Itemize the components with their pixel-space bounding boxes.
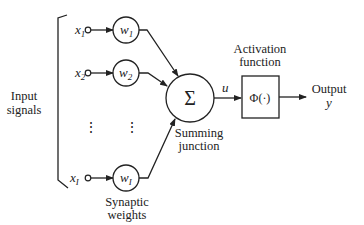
induced-field-label: u: [222, 80, 229, 95]
svg-text:Input: Input: [11, 89, 38, 103]
input-bracket: [58, 15, 68, 188]
weights-ellipsis: ⋮: [125, 120, 139, 135]
svg-text:weights: weights: [108, 208, 147, 222]
input-row-2: x2 w2: [74, 60, 167, 86]
svg-text:junction: junction: [178, 139, 221, 153]
svg-text:Output: Output: [312, 82, 347, 96]
neuron-model-diagram: Input signals x1 w1 x2 w2 ⋮ ⋮ xI wI Syna…: [0, 0, 364, 225]
input-node-2: [85, 70, 91, 76]
activation-function-label: Activation function: [234, 42, 288, 69]
inputs-ellipsis: ⋮: [84, 120, 98, 135]
svg-text:x2: x2: [74, 65, 86, 82]
svg-text:signals: signals: [7, 103, 42, 117]
svg-text:function: function: [239, 55, 281, 69]
svg-text:Synaptic: Synaptic: [105, 195, 149, 209]
svg-text:xI: xI: [69, 170, 80, 187]
summing-junction-label: Summing junction: [175, 126, 224, 153]
svg-text:x1: x1: [74, 22, 85, 39]
output-label: Output y: [312, 82, 347, 110]
sigma-symbol: Σ: [184, 87, 196, 109]
input-node-I: [85, 175, 91, 181]
input-signals-label: Input signals: [7, 89, 42, 117]
svg-text:y: y: [324, 95, 332, 110]
phi-symbol: Φ(·): [250, 91, 271, 105]
input-node-1: [85, 27, 91, 33]
svg-text:Activation: Activation: [234, 42, 288, 56]
synaptic-weights-label: Synaptic weights: [105, 195, 149, 222]
svg-text:Summing: Summing: [175, 126, 224, 140]
